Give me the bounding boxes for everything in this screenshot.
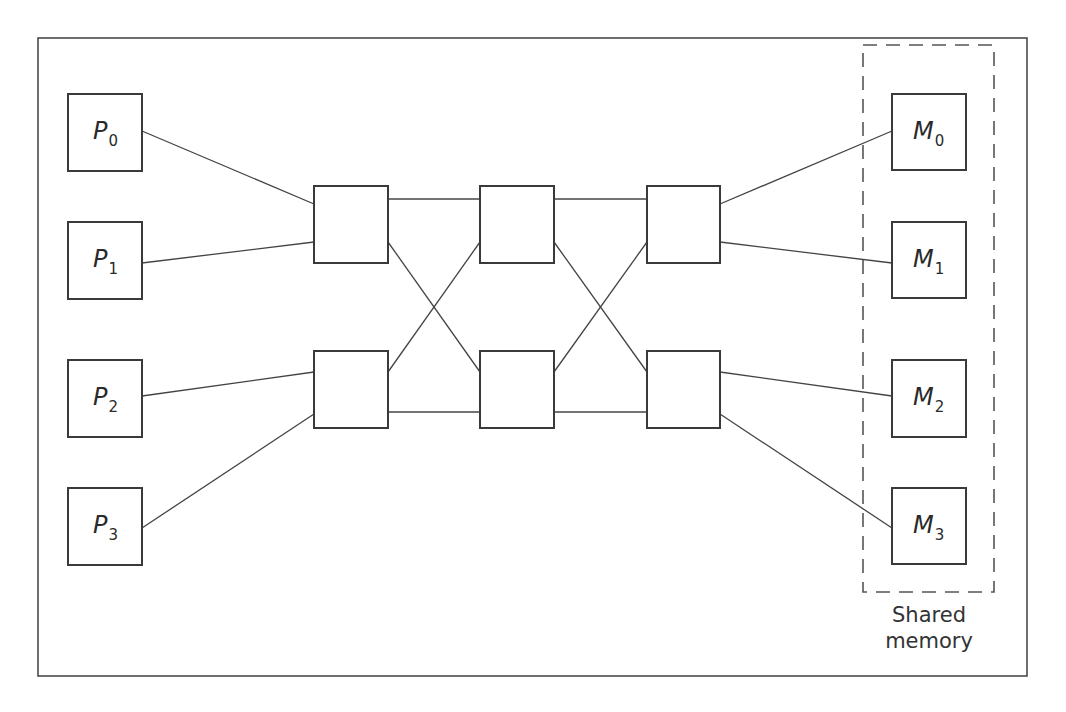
link-p0-s1a xyxy=(142,131,314,204)
memory-index: 2 xyxy=(935,398,945,416)
switch-stage3-top xyxy=(647,186,720,263)
link-s3b-m3 xyxy=(720,414,892,528)
processor-index: 0 xyxy=(108,132,118,150)
memory-m3: M3 xyxy=(892,488,966,564)
memory-index: 3 xyxy=(935,526,945,544)
link-p2-s1b xyxy=(142,372,314,396)
switch-stage3-bottom xyxy=(647,351,720,428)
link-s3a-m0 xyxy=(720,131,892,204)
switch-stages xyxy=(314,186,720,428)
network-diagram: P0 P1 P2 P3 M0 M1 M2 M3 Shared me xyxy=(0,0,1066,712)
memory-letter: M xyxy=(913,511,934,539)
link-p3-s1b xyxy=(142,414,314,528)
switch-stage1-top xyxy=(314,186,388,263)
memory-index: 0 xyxy=(935,132,945,150)
processor-p0: P0 xyxy=(68,94,142,171)
processor-p3: P3 xyxy=(68,488,142,565)
processor-p1: P1 xyxy=(68,222,142,299)
switch-stage2-top xyxy=(480,186,554,263)
processor-letter: P xyxy=(93,117,108,145)
switch-stage1-bottom xyxy=(314,351,388,428)
link-p1-s1a xyxy=(142,242,314,263)
memory-index: 1 xyxy=(935,260,945,278)
link-s3a-m1 xyxy=(720,242,892,263)
shared-memory-label-line1: Shared xyxy=(892,603,966,627)
processor-letter: P xyxy=(93,511,108,539)
processor-letter: P xyxy=(93,383,108,411)
shared-memory-label-line2: memory xyxy=(885,629,973,653)
processor-index: 1 xyxy=(108,260,118,278)
processor-index: 2 xyxy=(108,398,118,416)
memory-letter: M xyxy=(913,245,934,273)
link-s3b-m2 xyxy=(720,372,892,396)
memory-m2: M2 xyxy=(892,360,966,437)
memory-m0: M0 xyxy=(892,94,966,170)
switch-stage2-bottom xyxy=(480,351,554,428)
processor-index: 3 xyxy=(108,526,118,544)
memory-letter: M xyxy=(913,117,934,145)
memory-m1: M1 xyxy=(892,222,966,298)
processor-p2: P2 xyxy=(68,360,142,437)
memory-letter: M xyxy=(913,383,934,411)
processor-letter: P xyxy=(93,245,108,273)
